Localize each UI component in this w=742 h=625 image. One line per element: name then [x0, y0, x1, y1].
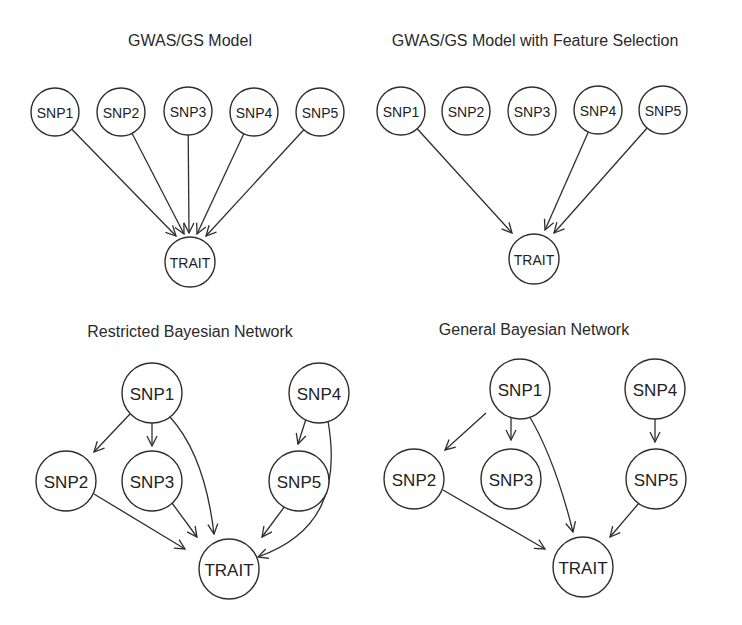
node-label: SNP1	[383, 104, 420, 120]
node-label: SNP2	[44, 473, 88, 492]
edge-general-bayesian-network-snp5-to-trait	[610, 503, 639, 537]
node-label: TRAIT	[558, 559, 607, 578]
node-label: SNP4	[236, 105, 273, 121]
node-label: SNP5	[634, 471, 678, 490]
node-label: SNP1	[37, 105, 74, 121]
edge-restricted-bayesian-network-snp1-to-snp2	[94, 414, 130, 452]
node-restricted-bayesian-network-snp2: SNP2	[36, 451, 96, 511]
node-gwas-gs-feature-selection-trait: TRAIT	[509, 234, 559, 284]
node-label: SNP2	[392, 471, 436, 490]
node-label: SNP4	[580, 103, 617, 119]
node-general-bayesian-network-trait: TRAIT	[553, 537, 613, 597]
node-label: SNP3	[130, 473, 174, 492]
node-gwas-gs-model-snp2: SNP2	[97, 88, 145, 136]
edge-gwas-gs-feature-selection-snp1-to-trait	[417, 129, 512, 233]
node-label: SNP5	[302, 105, 339, 121]
node-gwas-gs-model-snp5: SNP5	[296, 88, 344, 136]
node-label: SNP3	[514, 104, 551, 120]
node-gwas-gs-feature-selection-snp4: SNP4	[574, 86, 622, 134]
node-restricted-bayesian-network-snp1: SNP1	[122, 363, 182, 423]
node-label: SNP3	[489, 471, 533, 490]
node-label: SNP2	[448, 104, 485, 120]
edge-restricted-bayesian-network-snp3-to-trait	[172, 503, 197, 537]
node-general-bayesian-network-snp3: SNP3	[481, 449, 541, 509]
node-label: SNP3	[170, 104, 207, 120]
edge-general-bayesian-network-snp1-to-snp2	[445, 413, 486, 450]
node-label: TRAIT	[170, 255, 211, 271]
node-gwas-gs-model-trait: TRAIT	[165, 237, 215, 287]
node-general-bayesian-network-snp4: SNP4	[625, 359, 685, 419]
node-general-bayesian-network-snp2: SNP2	[384, 449, 444, 509]
node-restricted-bayesian-network-snp4: SNP4	[289, 363, 349, 423]
node-gwas-gs-feature-selection-snp5: SNP5	[639, 86, 687, 134]
node-gwas-gs-model-snp1: SNP1	[31, 88, 79, 136]
node-restricted-bayesian-network-snp5: SNP5	[269, 451, 329, 511]
node-label: TRAIT	[204, 561, 253, 580]
node-general-bayesian-network-snp1: SNP1	[490, 359, 550, 419]
node-label: TRAIT	[514, 252, 555, 268]
node-label: SNP5	[277, 473, 321, 492]
edge-gwas-gs-feature-selection-snp5-to-trait	[554, 128, 647, 233]
node-gwas-gs-feature-selection-snp1: SNP1	[377, 87, 425, 135]
edge-gwas-gs-model-snp1-to-trait	[72, 129, 176, 236]
node-gwas-gs-model-snp3: SNP3	[164, 87, 212, 135]
node-restricted-bayesian-network-trait: TRAIT	[199, 539, 259, 599]
edge-gwas-gs-model-snp3-to-trait	[188, 135, 189, 233]
node-label: SNP4	[297, 385, 341, 404]
edge-gwas-gs-model-snp4-to-trait	[197, 134, 244, 234]
node-gwas-gs-feature-selection-snp2: SNP2	[442, 87, 490, 135]
edge-gwas-gs-feature-selection-snp4-to-trait	[545, 132, 588, 230]
node-label: SNP1	[498, 381, 542, 400]
bayesian-network-diagram: SNP1SNP2SNP3SNP4SNP5TRAITSNP1SNP2SNP3SNP…	[0, 0, 742, 625]
node-gwas-gs-feature-selection-snp3: SNP3	[508, 87, 556, 135]
node-restricted-bayesian-network-snp3: SNP3	[122, 451, 182, 511]
edge-restricted-bayesian-network-snp5-to-trait	[262, 506, 285, 537]
node-general-bayesian-network-snp5: SNP5	[626, 449, 686, 509]
node-gwas-gs-model-snp4: SNP4	[230, 88, 278, 136]
node-label: SNP2	[103, 105, 140, 121]
edge-restricted-bayesian-network-snp4-to-snp5	[298, 419, 306, 444]
node-label: SNP5	[645, 103, 682, 119]
edge-gwas-gs-model-snp2-to-trait	[132, 133, 184, 234]
node-label: SNP1	[130, 385, 174, 404]
node-label: SNP4	[633, 381, 677, 400]
